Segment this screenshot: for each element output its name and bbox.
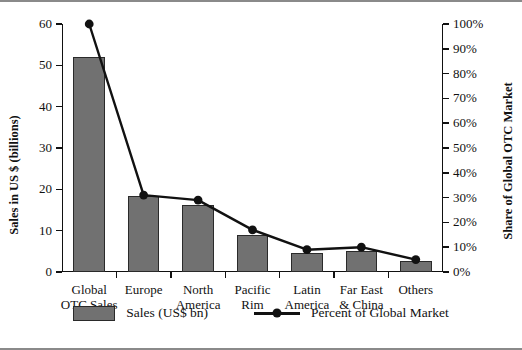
x-tick [279,272,281,278]
y-tick-label-right: 50% [453,140,477,156]
x-tick [333,272,335,278]
y-tick-label-right: 10% [453,239,477,255]
y-tick-label-right: 20% [453,214,477,230]
bar-swatch-icon [73,306,115,321]
x-tick-label-line: Others [398,282,433,297]
line-marker-icon [254,307,300,319]
y-tick-right [443,246,449,248]
x-tick-label: Others [398,282,433,297]
x-tick [170,272,172,278]
y-tick-right [443,271,449,273]
y-tick-right [443,23,449,25]
legend-item-percent: Percent of Global Market [254,305,449,321]
legend-item-sales: Sales (US$ bn) [73,305,208,321]
x-tick-label: Europe [125,282,163,297]
y-tick-label-right: 70% [453,90,477,106]
y-tick-left [56,189,62,191]
y-tick-label-left: 40 [39,99,52,115]
bar [346,251,378,272]
y-tick-label-left: 30 [39,140,52,156]
y-tick-right [443,73,449,75]
x-tick-label-line: Europe [125,282,163,297]
y-tick-right [443,222,449,224]
y-tick-label-right: 0% [453,264,470,280]
y-tick-left [56,271,62,273]
y-tick-label-left: 50 [39,57,52,73]
y-tick-left [56,106,62,108]
y-tick-left [56,65,62,67]
x-tick-label-line: North [176,282,221,297]
y-tick-label-right: 100% [453,16,483,32]
x-tick-label-line: Far East [339,282,383,297]
x-tick [116,272,118,278]
y-axis-title-right: Share of Global OTC Market [501,82,516,239]
y-axis-title-left: Sales in US $ (billions) [7,115,22,234]
x-tick-label-line: Global [61,282,118,297]
y-tick-label-right: 30% [453,190,477,206]
y-tick-label-right: 40% [453,165,477,181]
y-tick-label-right: 80% [453,66,477,82]
x-tick-label-line: Latin [285,282,330,297]
y-tick-label-left: 60 [39,16,52,32]
y-tick-right [443,122,449,124]
legend-label-percent: Percent of Global Market [311,305,449,321]
y-tick-label-left: 0 [46,264,53,280]
x-tick [225,272,227,278]
y-tick-right [443,98,449,100]
y-tick-label-right: 90% [453,41,477,57]
bar [73,57,105,272]
chart-figure: Sales in US $ (billions) Share of Global… [0,0,522,350]
x-tick [388,272,390,278]
plot-area: 0102030405060 0%10%20%30%40%50%60%70%80%… [62,24,443,272]
bar [291,253,323,272]
bar [128,196,160,272]
y-tick-left [56,230,62,232]
legend-label-sales: Sales (US$ bn) [126,305,208,321]
y-tick-right [443,48,449,50]
bar [182,205,214,272]
y-tick-right [443,147,449,149]
y-tick-left [56,23,62,25]
y-tick-label-right: 60% [453,115,477,131]
y-tick-label-left: 10 [39,223,52,239]
y-tick-label-left: 20 [39,181,52,197]
chart-legend: Sales (US$ bn) Percent of Global Market [0,305,522,321]
y-tick-right [443,172,449,174]
y-tick-left [56,147,62,149]
y-tick-right [443,197,449,199]
x-tick-label-line: Pacific [234,282,270,297]
bar [237,235,269,272]
bar [400,261,432,272]
